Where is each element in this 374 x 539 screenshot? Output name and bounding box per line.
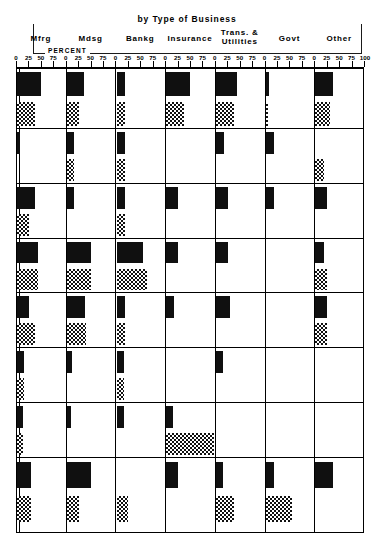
grid-row-divider	[16, 402, 364, 403]
bar-checkered	[17, 378, 24, 400]
axis-tick	[227, 61, 228, 67]
bar-solid	[67, 72, 85, 96]
bar-solid	[216, 351, 223, 373]
bar-checkered	[17, 433, 23, 455]
bar-checkered	[17, 269, 38, 291]
axis-tick-label: 50	[137, 54, 144, 61]
bar-solid	[117, 72, 126, 96]
axis-tick-label: 50	[37, 54, 44, 61]
axis-tick-label: 75	[199, 54, 206, 61]
grid-row-divider	[16, 183, 364, 184]
bar-checkered	[117, 214, 125, 236]
bar-checkered	[315, 102, 329, 126]
axis-tick-label: 75	[249, 54, 256, 61]
bar-checkered	[17, 496, 31, 522]
bar-checkered	[17, 214, 29, 236]
bar-checkered	[166, 102, 184, 126]
axis-tick	[115, 61, 116, 67]
bar-solid	[67, 296, 85, 318]
axis-tick	[41, 61, 42, 67]
axis-tick	[240, 61, 241, 67]
bar-checkered	[117, 378, 124, 400]
axis-tick	[265, 61, 266, 67]
bar-solid	[166, 462, 178, 488]
bar-solid	[216, 72, 237, 96]
axis-tick-label: 75	[348, 54, 355, 61]
axis-tick-label: 50	[286, 54, 293, 61]
grid-row-divider	[16, 238, 364, 239]
axis-tick	[277, 61, 278, 67]
bar-checkered	[315, 269, 327, 291]
bar-solid	[315, 187, 327, 209]
bar-solid	[166, 296, 174, 318]
axis-tick-label: 25	[75, 54, 82, 61]
axis-tick	[289, 61, 290, 67]
bar-solid	[216, 462, 223, 488]
bar-solid	[67, 187, 74, 209]
axis-tick	[327, 61, 328, 67]
bar-checkered	[315, 323, 327, 345]
axis-tick	[140, 61, 141, 67]
bar-solid	[166, 406, 173, 428]
bar-solid	[17, 462, 31, 488]
bar-solid	[17, 187, 35, 209]
bar-solid	[117, 406, 124, 428]
axis-tick	[16, 61, 17, 67]
bar-checkered	[117, 159, 125, 181]
axis-tick	[103, 61, 104, 67]
axis-tick-label: 75	[149, 54, 156, 61]
bar-solid	[17, 72, 41, 96]
axis-tick	[364, 61, 365, 67]
bar-solid	[67, 462, 91, 488]
chart-page: by Type of Business PERCENT MfrgMdsgBank…	[0, 0, 374, 539]
axis-tick-label: 25	[323, 54, 330, 61]
bar-checkered	[67, 496, 79, 522]
axis-tick-label: 50	[87, 54, 94, 61]
axis-tick	[314, 61, 315, 67]
axis-tick	[190, 61, 191, 67]
axis-tick-label: 0	[213, 54, 216, 61]
bar-solid	[216, 132, 224, 154]
axis-tick-label: 50	[187, 54, 194, 61]
chart-grid	[0, 68, 374, 533]
bar-solid	[315, 462, 333, 488]
chart-title: by Type of Business	[0, 14, 374, 24]
axis-tick	[128, 61, 129, 67]
bar-solid	[216, 296, 230, 318]
bar-solid	[117, 296, 125, 318]
axis-tick-label: 25	[274, 54, 281, 61]
bar-checkered	[117, 496, 129, 522]
axis-tick-label: 50	[236, 54, 243, 61]
axis-tick	[53, 61, 54, 67]
bar-solid	[266, 187, 274, 209]
bar-solid	[67, 406, 71, 428]
axis-tick	[339, 61, 340, 67]
axis-tick	[91, 61, 92, 67]
bar-checkered	[67, 102, 79, 126]
grid-row-divider	[16, 292, 364, 293]
bar-checkered	[266, 496, 292, 522]
bar-checkered	[216, 496, 234, 522]
axis-tick	[153, 61, 154, 67]
bar-solid	[166, 72, 190, 96]
bar-checkered	[117, 102, 125, 126]
axis-tick	[252, 61, 253, 67]
bar-solid	[17, 351, 24, 373]
bar-solid	[166, 242, 178, 264]
grid-row-divider	[16, 128, 364, 129]
axis-tick	[66, 61, 67, 67]
axis-tick-label: 25	[224, 54, 231, 61]
bar-solid	[266, 462, 274, 488]
bar-solid	[17, 242, 38, 264]
column-header-other: Other	[308, 34, 370, 54]
bar-checkered	[17, 102, 35, 126]
bar-solid	[117, 132, 125, 154]
axis-tick	[28, 61, 29, 67]
axis-tick-label: 50	[336, 54, 343, 61]
axis-tick-label: 0	[263, 54, 266, 61]
axis-tick	[215, 61, 216, 67]
grid-row-divider	[16, 347, 364, 348]
axis-tick-label: 75	[50, 54, 57, 61]
axis-tick-label: 0	[313, 54, 316, 61]
axis-tick	[78, 61, 79, 67]
